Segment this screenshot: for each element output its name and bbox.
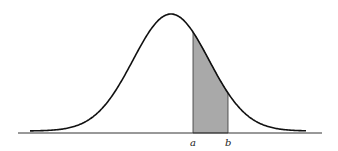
normal-curve-diagram: a b [0,0,338,151]
label-a: a [190,137,196,148]
label-b: b [225,137,231,148]
shaded-area-a-to-b [193,32,228,133]
bell-curve [30,14,306,131]
